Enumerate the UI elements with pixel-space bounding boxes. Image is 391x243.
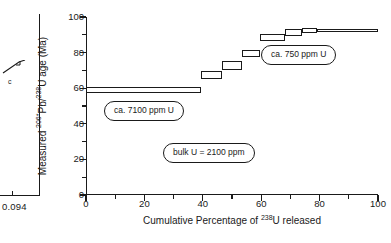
x-axis-title-sup-238: 238 [261,214,273,221]
y-axis-title-sup-238: 238 [35,87,42,99]
step-box [302,28,317,33]
y-tick-label: 80 [58,48,84,58]
x-tick-label: 100 [363,199,391,209]
step-box [242,50,260,57]
fragment-axis-value: 0.094 [2,202,27,212]
annotation-ca-7100-ppm-u: ca. 7100 ppm U [104,101,184,121]
x-tick-label: 80 [305,199,335,209]
x-tick-minor [115,195,116,199]
step-box [260,34,285,41]
fragment-panel-letter: c [8,78,12,85]
y-axis-title: Measured 206*Pb/238U age (Ma) [37,37,48,175]
y-tick-label: 20 [58,154,84,164]
y-axis-title-part1: Measured [37,128,48,175]
y-tick-label: 60 [58,83,84,93]
annotation-bulk-u: bulk U = 2100 ppm [163,143,255,163]
step-box [317,29,378,33]
step-box [222,61,242,70]
x-tick-label: 60 [246,199,276,209]
adjacent-figure-fragment: c [0,14,40,196]
x-tick-minor [231,195,232,199]
y-axis-title-part3: U age (Ma) [37,37,48,87]
x-tick-minor [348,195,349,199]
age-spectrum-plot: Measured 206*Pb/238U age (Ma) Cumulative… [86,17,378,195]
fragment-trend-line-icon [2,60,26,74]
y-axis-title-sup-206: 206* [35,114,42,128]
step-box [86,87,201,92]
y-tick-label: 40 [58,119,84,129]
step-box [201,71,221,79]
y-axis-title-part2: Pb/ [37,99,48,114]
x-tick-minor [290,195,291,199]
x-tick-label: 40 [188,199,218,209]
x-tick-label: 20 [129,199,159,209]
annotation-ca-750-ppm-u: ca. 750 ppm U [261,45,336,65]
x-axis-title-suffix: U released [273,215,321,226]
step-box [285,29,303,36]
fragment-axis-bottom [0,195,40,196]
fragment-axis-tick [12,191,13,196]
x-axis-title-prefix: Cumulative Percentage of [143,215,261,226]
x-axis-title: Cumulative Percentage of 238U released [143,215,321,226]
x-tick-label: 0 [71,199,101,209]
y-tick-label: 100 [58,12,84,22]
x-tick-minor [173,195,174,199]
fragment-plot-frame [0,14,40,196]
